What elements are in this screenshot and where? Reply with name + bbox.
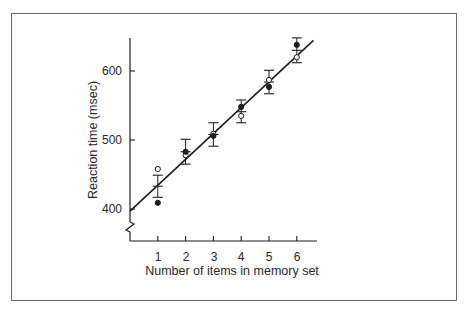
axis-break-icon (126, 222, 134, 232)
x-tick-label-6: 6 (294, 250, 301, 264)
data-points (155, 42, 299, 205)
filled-circle-point (239, 104, 244, 109)
y-tick-label-500: 500 (102, 133, 122, 147)
filled-circle-point (155, 200, 160, 205)
x-tick-label-1: 1 (155, 250, 162, 264)
chart-canvas: 400 500 600 Reaction time (msec) Number … (0, 0, 470, 317)
open-circle-point (155, 166, 160, 171)
x-tick-label-5: 5 (266, 250, 273, 264)
filled-circle-point (266, 84, 271, 89)
x-tick-label-2: 2 (183, 250, 190, 264)
filled-circle-point (211, 133, 216, 138)
x-axis-title: Number of items in memory set (145, 264, 319, 278)
open-circle-point (239, 113, 244, 118)
open-circle-point (294, 55, 299, 60)
y-axis-title: Reaction time (msec) (86, 81, 100, 199)
filled-circle-point (294, 42, 299, 47)
x-tick-label-3: 3 (211, 250, 218, 264)
axis-labels: 400 500 600 Reaction time (msec) Number … (86, 64, 319, 278)
y-tick-label-600: 600 (102, 64, 122, 78)
y-tick-label-400: 400 (102, 202, 122, 216)
filled-circle-point (183, 149, 188, 154)
open-circle-point (266, 77, 271, 82)
error-bars (153, 38, 302, 197)
axes (126, 38, 317, 241)
x-tick-label-4: 4 (238, 250, 245, 264)
